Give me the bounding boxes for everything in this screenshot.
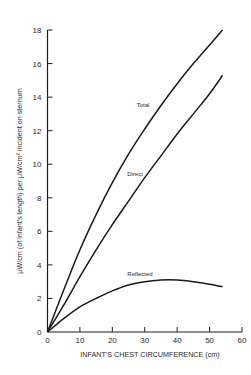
- y-tick-label: 6: [37, 227, 42, 236]
- axes: [48, 30, 243, 332]
- y-axis-label: μW/cm (of infant's length) per μW/cm² in…: [15, 88, 24, 273]
- series-label-total: Total: [137, 102, 150, 108]
- x-axis-label: INFANT'S CHEST CIRCUMFERENCE (cm): [80, 350, 219, 359]
- x-tick-label: 30: [140, 336, 149, 345]
- series-label-direct: Direct: [127, 171, 143, 177]
- series-labels: TotalDirectReflected: [127, 102, 153, 277]
- x-tick-label: 10: [75, 336, 84, 345]
- y-tick-label: 10: [33, 160, 42, 169]
- x-tick-label: 50: [205, 336, 214, 345]
- y-tick-label: 14: [33, 93, 42, 102]
- y-tick-label: 2: [37, 294, 42, 303]
- chart: 0102030405060 024681012141618 TotalDirec…: [0, 0, 251, 375]
- x-tick-label: 0: [45, 336, 50, 345]
- y-ticks: 024681012141618: [33, 26, 53, 337]
- y-tick-label: 8: [37, 194, 42, 203]
- y-tick-label: 4: [37, 261, 42, 270]
- y-tick-label: 12: [33, 127, 42, 136]
- y-tick-label: 16: [33, 60, 42, 69]
- x-ticks: 0102030405060: [45, 327, 247, 345]
- series-label-reflected: Reflected: [127, 271, 152, 277]
- series-line-direct: [48, 75, 223, 332]
- y-tick-label: 0: [37, 328, 42, 337]
- y-tick-label: 18: [33, 26, 42, 35]
- x-tick-label: 20: [108, 336, 117, 345]
- series-lines: [48, 30, 223, 332]
- x-tick-label: 60: [238, 336, 247, 345]
- x-tick-label: 40: [173, 336, 182, 345]
